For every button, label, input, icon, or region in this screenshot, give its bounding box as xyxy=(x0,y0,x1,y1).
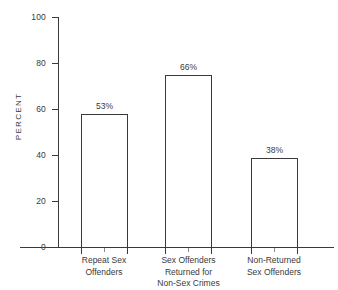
y-axis-line xyxy=(58,17,59,248)
y-tick-label-80: 80 xyxy=(36,58,46,68)
x-tick-bar1-left xyxy=(81,248,82,254)
x-tick-bar3-right xyxy=(297,248,298,254)
x-tick-bar2-left xyxy=(165,248,166,254)
y-tick-80 xyxy=(52,63,59,64)
y-tick-label-40: 40 xyxy=(36,150,46,160)
y-tick-20 xyxy=(52,201,59,202)
x-tick-bar2-center xyxy=(188,248,189,252)
y-tick-0 xyxy=(52,247,59,248)
x-category-label-1: Repeat Sex Offenders xyxy=(60,255,148,278)
y-axis-title: PERCENT xyxy=(14,86,23,148)
bar-non-returned-sex-offenders xyxy=(251,158,298,248)
y-tick-40 xyxy=(52,155,59,156)
y-tick-label-0: 0 xyxy=(41,242,46,252)
x-tick-bar1-center xyxy=(104,248,105,252)
y-tick-label-100: 100 xyxy=(31,12,46,22)
x-tick-bar1-right xyxy=(127,248,128,254)
x-category-label-3: Non-Returned Sex Offenders xyxy=(231,255,317,278)
x-tick-bar3-center xyxy=(274,248,275,252)
bar-value-sex-offenders-returned-non-sex-crimes: 66% xyxy=(165,62,212,72)
x-category-label-2: Sex Offenders Returned for Non-Sex Crime… xyxy=(143,255,234,290)
x-tick-bar3-left xyxy=(251,248,252,254)
bar-sex-offenders-returned-non-sex-crimes xyxy=(165,75,212,248)
y-tick-100 xyxy=(52,17,59,18)
x-tick-bar2-right xyxy=(211,248,212,254)
y-tick-label-60: 60 xyxy=(36,104,46,114)
bar-value-non-returned-sex-offenders: 38% xyxy=(251,145,298,155)
y-tick-label-20: 20 xyxy=(36,196,46,206)
bar-repeat-sex-offenders xyxy=(81,114,128,248)
y-tick-60 xyxy=(52,109,59,110)
bar-value-repeat-sex-offenders: 53% xyxy=(81,101,128,111)
